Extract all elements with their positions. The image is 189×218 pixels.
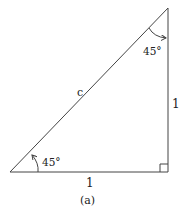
angle-arc-top: [149, 28, 166, 38]
right-triangle-diagram: c 1 1 45° 45° (a): [0, 0, 189, 218]
angle-arc-bottom-left: [32, 155, 38, 172]
horizontal-side-label: 1: [86, 176, 94, 190]
angle-top-label: 45°: [143, 45, 162, 57]
hypotenuse-label: c: [77, 86, 83, 99]
angle-bottom-left-label: 45°: [42, 156, 61, 168]
hypotenuse-line: [10, 8, 168, 172]
figure-caption: (a): [80, 194, 95, 207]
right-angle-marker: [160, 164, 168, 172]
vertical-side-label: 1: [172, 97, 180, 111]
